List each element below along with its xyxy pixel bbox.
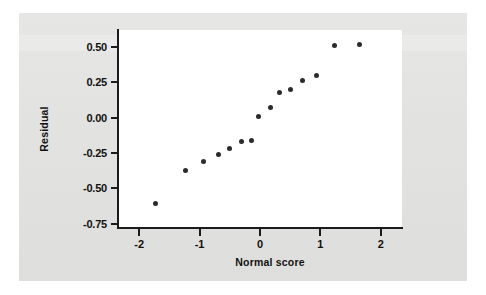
y-axis-tick: [111, 152, 118, 154]
data-point: [239, 139, 244, 144]
plot-area: [118, 30, 402, 228]
y-axis-tick-label: 0.25: [61, 76, 107, 88]
y-axis-tick-label: 0.50: [61, 41, 107, 53]
x-axis-tick-label: -2: [124, 238, 154, 250]
y-axis-tick: [111, 187, 118, 189]
x-axis-tick-label: 0: [245, 238, 275, 250]
figure-root: 0.500.250.00-0.25-0.50-0.75 -2-1012 Resi…: [0, 0, 486, 295]
data-point: [357, 42, 362, 47]
y-axis-tick: [111, 81, 118, 83]
x-axis-tick: [380, 229, 382, 236]
data-point: [183, 168, 188, 173]
y-axis-tick-label: -0.75: [61, 218, 107, 230]
x-axis-tick-label: 2: [366, 238, 396, 250]
data-point: [249, 138, 254, 143]
y-axis-tick: [111, 46, 118, 48]
y-axis-tick: [111, 117, 118, 119]
data-point: [314, 73, 319, 78]
y-axis-tick-label: -0.25: [61, 147, 107, 159]
x-axis-tick: [199, 229, 201, 236]
x-axis-tick: [319, 229, 321, 236]
x-axis-tick: [138, 229, 140, 236]
data-point: [216, 152, 221, 157]
y-axis-tick: [111, 223, 118, 225]
x-axis-title: Normal score: [235, 256, 305, 268]
x-axis-tick-label: -1: [185, 238, 215, 250]
data-point: [201, 159, 206, 164]
y-axis-title: Residual: [38, 106, 50, 151]
y-axis-line: [117, 29, 119, 229]
y-axis-tick-label: 0.00: [61, 112, 107, 124]
y-axis-tick-label: -0.50: [61, 182, 107, 194]
x-axis-tick-label: 1: [305, 238, 335, 250]
data-point: [288, 87, 293, 92]
x-axis-tick: [259, 229, 261, 236]
